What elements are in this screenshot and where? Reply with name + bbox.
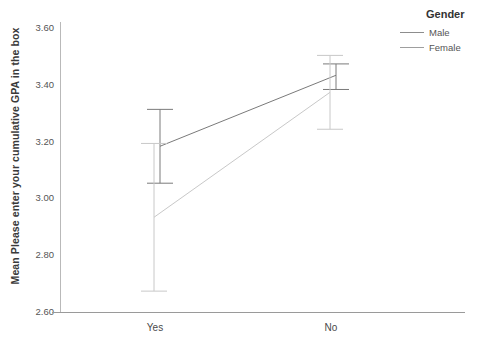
series-line-female — [154, 92, 330, 217]
line-chart: Mean Please enter your cumulative GPA in… — [0, 0, 495, 347]
error-bar-female-no — [317, 55, 343, 129]
legend-item[interactable]: Male — [400, 27, 492, 38]
legend-item[interactable]: Female — [400, 42, 492, 53]
error-bar-female-yes — [141, 143, 167, 291]
legend-items: MaleFemale — [400, 27, 492, 53]
series-line-male — [160, 75, 336, 146]
legend-line-swatch — [400, 32, 424, 33]
x-axis-tick-label: Yes — [115, 322, 195, 333]
legend-line-swatch — [400, 47, 424, 48]
legend-title: Gender — [426, 8, 492, 20]
error-bar-male-no — [323, 64, 349, 90]
legend: Gender MaleFemale — [400, 8, 492, 57]
legend-item-label: Male — [429, 27, 450, 38]
error-bar-male-yes — [147, 109, 173, 183]
legend-item-label: Female — [429, 42, 461, 53]
x-axis-tick-label: No — [291, 322, 371, 333]
